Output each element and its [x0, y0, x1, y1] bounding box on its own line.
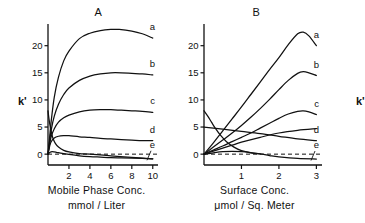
x-tick-label: 2 [276, 170, 281, 181]
x-tick-label: 2 [66, 170, 71, 181]
y-tick-label: 15 [32, 67, 43, 78]
curve-label-e: e [314, 139, 319, 150]
panel-b-y-axis-label: k' [356, 95, 365, 107]
curve-b [48, 73, 153, 154]
y-tick-label: 0 [193, 149, 198, 160]
curve-label-b: b [314, 59, 319, 70]
curve-c [48, 110, 153, 155]
x-tick-label: 4 [87, 170, 92, 181]
y-tick-label: 20 [32, 40, 43, 51]
panel-a-x-axis-label-line2: mmol / Liter [12, 199, 181, 211]
curve-label-d: d [314, 124, 319, 135]
panel-a-x-axis-label-line1: Mobile Phase Conc. [12, 184, 181, 196]
y-tick-label: 0 [37, 149, 42, 160]
curve-label-a: a [314, 29, 320, 40]
curve-label-b: b [150, 58, 155, 69]
x-tick-label: 3 [314, 170, 319, 181]
y-tick-label: 5 [193, 121, 198, 132]
y-tick-label: 10 [32, 94, 43, 105]
y-tick-label: 15 [188, 67, 199, 78]
panel-a: A k' 05101520246810abcde Mobile Phase Co… [0, 0, 169, 223]
curve-d [48, 136, 153, 155]
curve-label-c: c [314, 98, 319, 109]
curve-label-a: a [150, 21, 156, 32]
curve-label-e: e [150, 139, 155, 150]
curve-b [204, 72, 316, 154]
y-tick-label: 5 [37, 121, 42, 132]
y-tick-label: 10 [188, 94, 199, 105]
x-tick-label: 1 [239, 170, 244, 181]
curve-label-d: d [150, 124, 155, 135]
panel-b-x-axis-label-line2: μmol / Sq. Meter [170, 199, 339, 211]
y-tick-label: 20 [188, 40, 199, 51]
x-tick-label: 10 [147, 170, 158, 181]
panel-b: B k' 05101520123abcde Surface Conc. μmol… [170, 0, 339, 223]
x-tick-label: 6 [108, 170, 113, 181]
x-tick-label: 8 [129, 170, 134, 181]
curve-label-c: c [150, 95, 155, 106]
panel-b-x-axis-label-line1: Surface Conc. [170, 184, 339, 196]
curve-e [204, 151, 316, 159]
